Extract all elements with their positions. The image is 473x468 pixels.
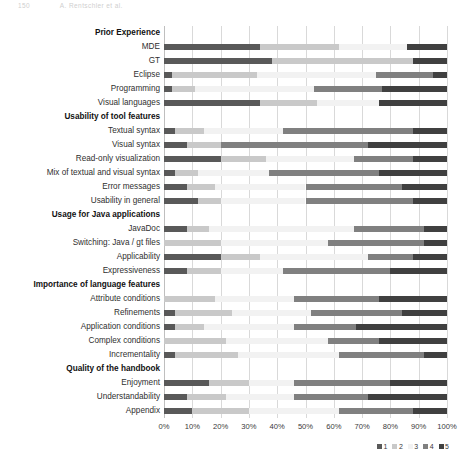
bar-segment-1 [164,254,221,260]
legend-item[interactable]: 3 [408,443,418,450]
bar-segment-1 [164,72,172,78]
category-label: Usability in general [2,196,160,206]
bar-segment-5 [402,310,447,316]
bar-segment-2 [175,128,203,134]
bar-segment-1 [164,58,272,64]
category-label: Error messages [2,182,160,192]
bar-segment-3 [226,338,328,344]
x-tick-label: 40% [270,422,285,431]
bar-segment-4 [314,86,382,92]
bar-segment-4 [328,338,379,344]
bar-row [164,324,447,330]
bar-segment-4 [269,170,379,176]
bar-segment-2 [198,198,221,204]
bar-segment-2 [187,142,221,148]
bar-row [164,226,447,232]
x-tick-label: 10% [185,422,200,431]
bar-row [164,352,447,358]
bar-segment-5 [413,198,447,204]
bar-segment-5 [413,128,447,134]
bar-segment-2 [164,338,226,344]
bar-row [164,408,447,414]
category-label: Appendix [2,406,160,416]
bar-segment-4 [283,128,413,134]
category-label: MDE [2,42,160,52]
bar-segment-3 [209,226,353,232]
bar-segment-4 [368,254,413,260]
category-label: Understandability [2,392,160,402]
bar-segment-4 [283,268,391,274]
category-label: Mix of textual and visual syntax [2,168,160,178]
running-head: A. Rentschler et al. [60,2,123,9]
group-label: Importance of language features [2,280,160,290]
group-label: Prior Experience [2,28,160,38]
category-label: Application conditions [2,322,160,332]
category-axis-labels: Prior ExperienceMDEGTEclipseProgrammingV… [0,26,160,418]
legend-item[interactable]: 1 [377,443,387,450]
bar-row [164,58,447,64]
bar-segment-3 [339,44,407,50]
bar-segment-5 [413,408,447,414]
bar-segment-5 [433,72,447,78]
bar-segment-3 [198,170,269,176]
group-label: Usability of tool features [2,112,160,122]
bar-segment-4 [294,324,356,330]
bar-segment-4 [354,226,425,232]
bar-segment-2 [187,184,215,190]
bar-segment-4 [294,394,368,400]
legend-item[interactable]: 5 [439,443,449,450]
bar-segment-5 [424,226,447,232]
legend-label: 1 [383,443,387,450]
category-label: Programming [2,84,160,94]
bar-segment-3 [257,72,376,78]
bar-segment-2 [187,226,210,232]
legend-item[interactable]: 2 [392,443,402,450]
x-tick-label: 80% [383,422,398,431]
x-tick-label: 70% [354,422,369,431]
legend-label: 4 [430,443,434,450]
bar-segment-3 [215,296,294,302]
bar-segment-3 [249,408,340,414]
bar-segment-1 [164,44,260,50]
category-label: Refinements [2,308,160,318]
bar-row [164,128,447,134]
bar-row [164,240,447,246]
bar-segment-2 [272,58,414,64]
bar-segment-1 [164,86,172,92]
bar-segment-4 [221,142,368,148]
bar-segment-5 [390,380,447,386]
bar-segment-3 [204,324,295,330]
category-label: Complex conditions [2,336,160,346]
bar-segment-5 [382,86,447,92]
legend-label: 5 [445,443,449,450]
gridline-100 [447,26,448,418]
legend-item[interactable]: 4 [423,443,433,450]
category-label: Incrementality [2,350,160,360]
bar-segment-2 [209,380,249,386]
legend-swatch [439,444,444,449]
bar-segment-1 [164,408,192,414]
bar-segment-2 [175,324,203,330]
bar-segment-3 [238,352,340,358]
bar-row [164,254,447,260]
page-header: 150 A. Rentschler et al. [18,2,458,9]
bar-segment-5 [356,324,447,330]
bar-row [164,86,447,92]
bar-row [164,184,447,190]
bar-segment-5 [424,240,447,246]
bar-segment-3 [204,128,283,134]
bar-segment-3 [221,268,283,274]
bar-segment-3 [195,86,314,92]
bar-segment-2 [164,296,215,302]
bar-segment-4 [294,380,390,386]
bar-row [164,72,447,78]
legend-swatch [377,444,382,449]
bar-segment-4 [354,156,413,162]
bar-segment-1 [164,310,175,316]
x-tick-label: 50% [298,422,313,431]
bar-segment-5 [413,254,447,260]
bar-segment-5 [379,100,447,106]
bar-segment-3 [221,240,329,246]
bar-segment-2 [192,408,249,414]
bar-segment-5 [413,58,447,64]
